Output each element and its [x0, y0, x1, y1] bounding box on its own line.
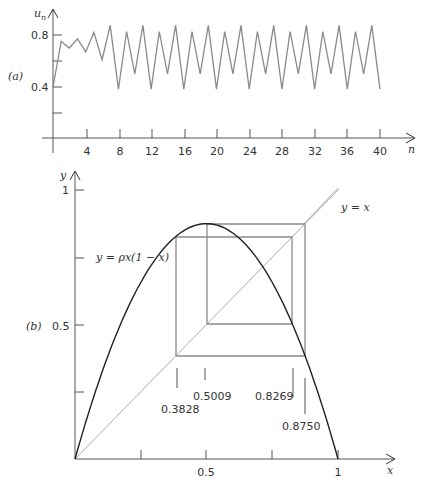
chart-a: (a) un 0.8 0.4 n 4	[8, 7, 415, 158]
chart-b: (b) y 1 0.5 x 0.5 1 y = x	[26, 169, 395, 479]
svg-text:8: 8	[117, 145, 124, 158]
y-tick-label-0.4: 0.4	[31, 81, 49, 94]
svg-text:32: 32	[308, 145, 322, 158]
figure: (a) un 0.8 0.4 n 4	[0, 0, 424, 486]
value-label-0.3828: 0.3828	[161, 403, 200, 416]
panel-label-a: (a)	[8, 70, 23, 83]
svg-text:36: 36	[340, 145, 354, 158]
value-label-0.5009: 0.5009	[193, 390, 232, 403]
svg-text:24: 24	[243, 145, 257, 158]
y-tick-label-1: 1	[62, 184, 69, 197]
x-tick-labels-a: 4 8 12 16 20 24 28 32 36 40	[84, 145, 388, 158]
svg-text:28: 28	[275, 145, 289, 158]
value-label-0.8750: 0.8750	[282, 420, 321, 433]
diagonal-label: y = x	[340, 201, 370, 214]
parabola-label: y = ρx(1 − x)	[95, 251, 169, 264]
svg-text:16: 16	[178, 145, 192, 158]
x-axis-label-b: x	[387, 464, 394, 477]
x-tick-label-1: 1	[335, 466, 342, 479]
x-ticks-a	[87, 129, 380, 138]
svg-text:4: 4	[84, 145, 91, 158]
svg-text:20: 20	[210, 145, 224, 158]
x-tick-label-0.5: 0.5	[197, 466, 215, 479]
value-label-0.8269: 0.8269	[255, 390, 294, 403]
svg-text:40: 40	[373, 145, 387, 158]
y-tick-label-0.5: 0.5	[52, 320, 70, 333]
x-axis-label-a: n	[408, 143, 415, 156]
y-tick-label-0.8: 0.8	[31, 29, 49, 42]
y-axis-label-a: un	[34, 7, 46, 22]
x-ticks-b	[141, 450, 338, 459]
series-u-n	[53, 25, 380, 89]
panel-label-b: (b)	[26, 320, 42, 333]
y-ticks-b	[75, 190, 84, 392]
y-axis-label-b: y	[59, 169, 67, 182]
svg-text:12: 12	[145, 145, 159, 158]
